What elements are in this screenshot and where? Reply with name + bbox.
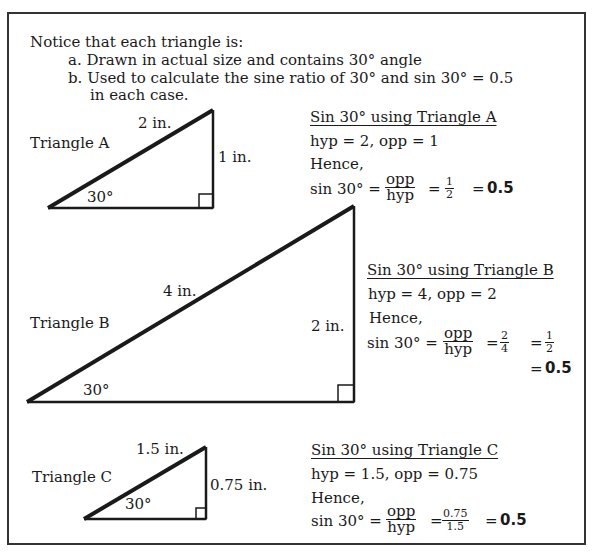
calc-a-given: hyp = 2, opp = 1 (310, 132, 439, 150)
calc-c-result: 0.5 (500, 511, 527, 529)
triangle-b-name: Triangle B (30, 314, 110, 332)
calc-c-lhs: sin 30° = (311, 512, 382, 530)
calc-a-title: Sin 30° using Triangle A (310, 108, 497, 126)
calc-c-fraction-value: 0.75 1.5 (442, 508, 469, 533)
calc-a-fraction-opp-hyp: opp hyp (385, 172, 415, 203)
triangle-b-hyp-label: 4 in. (163, 282, 197, 300)
calc-b-fraction-2-4: 2 4 (500, 330, 509, 355)
calc-b-fraction-1-2: 1 2 (545, 330, 554, 355)
triangle-c-name: Triangle C (32, 468, 112, 486)
triangle-b-angle-label: 30° (83, 381, 110, 399)
calc-a-result-eq: = (472, 180, 485, 198)
triangle-a-name: Triangle A (30, 134, 109, 152)
calc-b-given: hyp = 4, opp = 2 (368, 285, 497, 303)
triangle-c-angle-label: 30° (125, 495, 152, 513)
calc-c-hence: Hence, (311, 489, 365, 507)
right-angle-marker-icon (338, 385, 354, 402)
triangle-c-hyp-label: 1.5 in. (136, 440, 184, 458)
calc-b-result: 0.5 (545, 359, 572, 377)
triangle-a-hyp-label: 2 in. (138, 114, 172, 132)
calc-a-result: 0.5 (487, 179, 514, 197)
calc-a-eq: = (428, 180, 441, 198)
calc-b-lhs: sin 30° = (367, 334, 438, 352)
calc-b-hence: Hence, (369, 309, 423, 327)
calc-b-result-eq: = (530, 360, 543, 378)
right-angle-marker-icon (196, 508, 206, 519)
right-angle-marker-icon (199, 194, 213, 208)
calc-a-hence: Hence, (310, 155, 364, 173)
calc-b-eq2: = (530, 334, 543, 352)
calc-a-lhs: sin 30° = (310, 180, 381, 198)
calc-b-fraction-opp-hyp: opp hyp (443, 326, 473, 357)
triangle-a-angle-label: 30° (87, 188, 114, 206)
calc-c-result-eq: = (485, 512, 498, 530)
triangle-b-opp-label: 2 in. (311, 317, 345, 335)
calc-a-fraction-value: 1 2 (445, 176, 454, 201)
calc-c-title: Sin 30° using Triangle C (311, 441, 498, 459)
calc-b-title: Sin 30° using Triangle B (367, 261, 554, 279)
triangle-a-opp-label: 1 in. (218, 148, 252, 166)
calc-c-eq: = (430, 512, 443, 530)
triangle-c-opp-label: 0.75 in. (210, 476, 267, 494)
triangle-b-shape (27, 206, 354, 402)
triangle-a-shape (48, 110, 213, 208)
calc-b-eq: = (486, 334, 499, 352)
calc-c-given: hyp = 1.5, opp = 0.75 (311, 465, 478, 483)
calc-c-fraction-opp-hyp: opp hyp (386, 504, 416, 535)
